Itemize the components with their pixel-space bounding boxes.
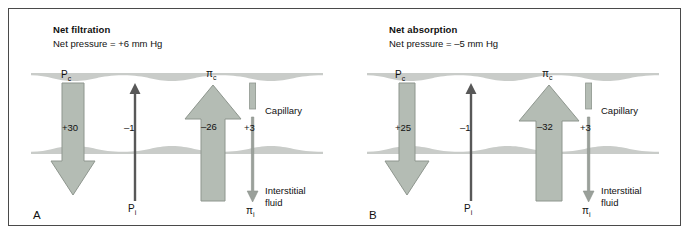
force-value-pii-a: +3 (244, 122, 255, 133)
panel-a-subtitle: Net pressure = +6 mm Hg (53, 37, 162, 50)
capillary-label-a: Capillary (265, 105, 302, 117)
interstitial-label-b-line1: Interstitial (601, 185, 661, 197)
force-value-pic-b: –32 (537, 121, 553, 132)
force-value-pc-b: +25 (395, 122, 411, 133)
interstitial-label-a-line2: fluid (265, 197, 325, 209)
panel-a: Net filtration Net pressure = +6 mm Hg P… (9, 9, 345, 225)
force-symbol-pic-b: πc (542, 68, 552, 81)
force-arrow-pii-b: +3 πi (581, 83, 597, 203)
force-symbol-pi-a: Pi (128, 203, 136, 216)
capillary-wall-top-b (367, 71, 659, 82)
force-symbol-pii-a: πi (246, 205, 254, 218)
interstitial-label-b: Interstitial fluid (601, 185, 661, 208)
force-symbol-pi-b: Pi (464, 203, 472, 216)
force-value-pi-a: –1 (124, 122, 135, 133)
force-arrow-pc-b: Pc +25 (387, 83, 437, 198)
panel-a-title-block: Net filtration Net pressure = +6 mm Hg (53, 23, 162, 50)
force-arrow-pi-b: –1 Pi (463, 83, 479, 201)
force-value-pii-b: +3 (580, 122, 591, 133)
force-arrow-pi-a: –1 Pi (127, 83, 143, 201)
force-arrow-pc-a: Pc +30 (51, 83, 101, 198)
force-symbol-pic-a: πc (206, 68, 216, 81)
panel-b-title-block: Net absorption Net pressure = –5 mm Hg (389, 23, 498, 50)
force-arrow-pic-a: πc –26 (185, 83, 241, 201)
capillary-wall-top-a (31, 71, 323, 82)
interstitial-label-a-line1: Interstitial (265, 185, 325, 197)
panel-b-title: Net absorption (389, 23, 498, 36)
force-symbol-pii-b: πi (582, 205, 590, 218)
interstitial-label-a: Interstitial fluid (265, 185, 325, 208)
force-arrow-pii-a: +3 πi (245, 83, 261, 203)
panel-b: Net absorption Net pressure = –5 mm Hg P… (345, 9, 681, 225)
capillary-label-b: Capillary (601, 105, 638, 117)
figure-frame: Net filtration Net pressure = +6 mm Hg P… (8, 8, 681, 226)
force-value-pic-a: –26 (201, 121, 217, 132)
panel-letter-b: B (369, 209, 377, 221)
force-arrow-pic-b: πc –32 (521, 83, 579, 201)
force-symbol-pc-b: Pc (395, 69, 405, 82)
interstitial-label-b-line2: fluid (601, 197, 661, 209)
force-symbol-pc-a: Pc (61, 69, 71, 82)
panel-letter-a: A (33, 209, 41, 221)
force-value-pc-a: +30 (62, 122, 78, 133)
force-value-pi-b: –1 (460, 122, 471, 133)
panel-b-subtitle: Net pressure = –5 mm Hg (389, 37, 498, 50)
panel-a-title: Net filtration (53, 23, 162, 36)
